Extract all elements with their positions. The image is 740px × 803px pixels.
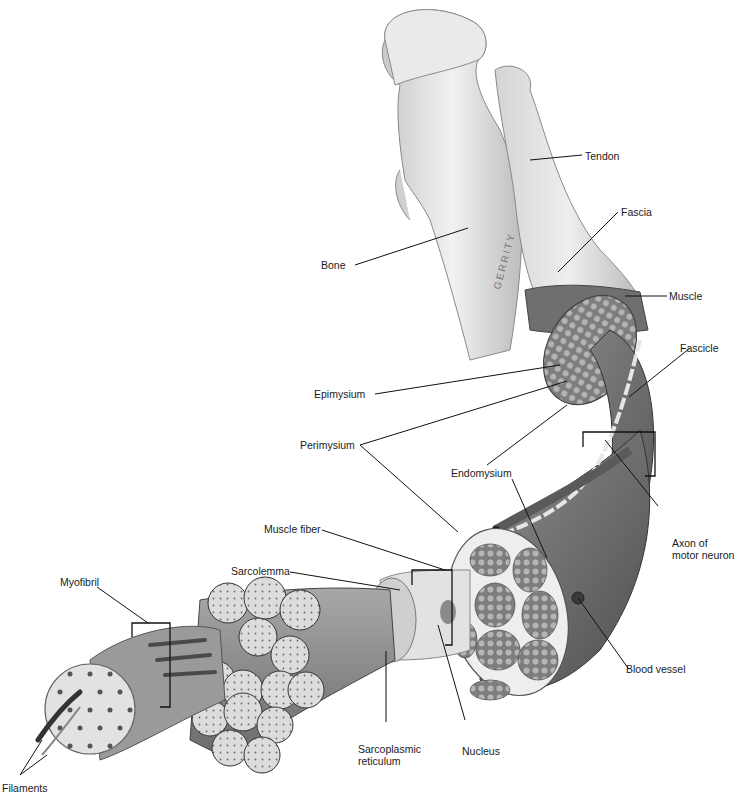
label-nucleus: Nucleus [462,745,500,757]
label-fascia: Fascia [621,206,652,218]
label-axon-of-motor-neuron: Axon of motor neuron [672,537,734,561]
label-blood-vessel: Blood vessel [626,663,686,675]
label-muscle: Muscle [669,290,702,302]
muscle-anatomy-illustration: GERRITY [0,0,740,803]
label-sarcolemma: Sarcolemma [231,565,290,577]
label-bone: Bone [321,259,346,271]
label-epimysium: Epimysium [314,388,365,400]
label-filaments: Filaments [2,782,48,794]
bone-shape [382,10,522,360]
label-endomysium: Endomysium [451,467,512,479]
label-perimysium: Perimysium [300,439,355,451]
label-myofibril: Myofibril [60,576,99,588]
label-sarcoplasmic-reticulum: Sarcoplasmic reticulum [358,743,421,767]
label-fascicle: Fascicle [680,342,719,354]
label-tendon: Tendon [585,150,619,162]
label-muscle-fiber: Muscle fiber [264,523,321,535]
